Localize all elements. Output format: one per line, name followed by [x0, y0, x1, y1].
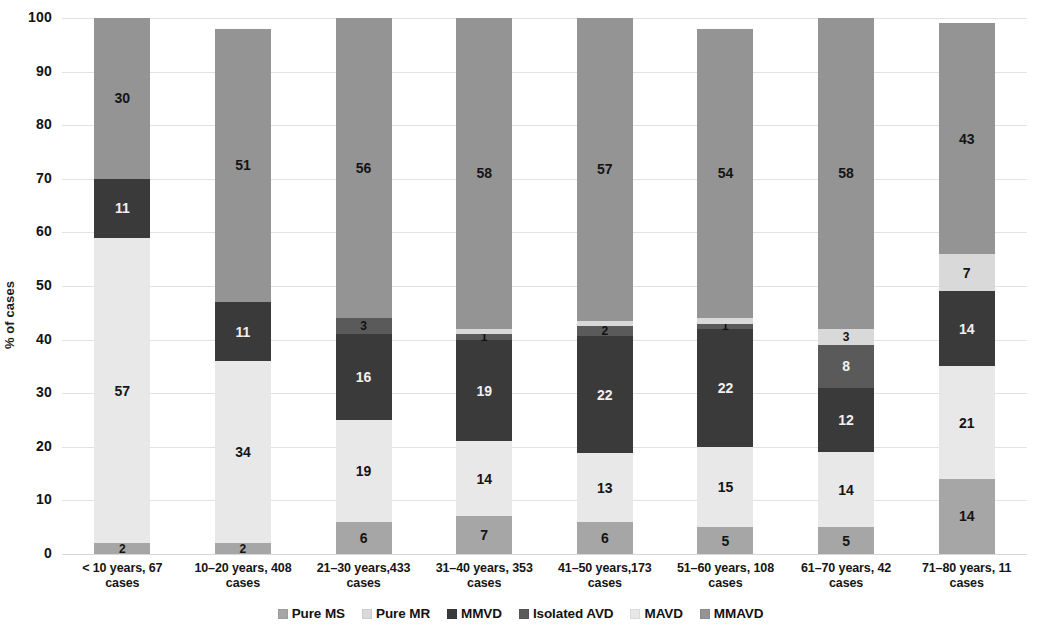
- bar-segment-value-label: 21: [939, 416, 995, 430]
- bar-segment[interactable]: 8: [818, 345, 874, 388]
- x-axis-category-label: 10–20 years, 408cases: [183, 561, 304, 591]
- gridline: [62, 286, 1027, 287]
- bar-segment[interactable]: 54: [697, 29, 753, 318]
- y-axis-tick-label: 30: [8, 384, 52, 400]
- bar-segment[interactable]: 14: [939, 291, 995, 366]
- bar-segment[interactable]: 30: [94, 18, 150, 179]
- bar-segment[interactable]: 13: [577, 453, 633, 522]
- legend-swatch-icon: [278, 609, 288, 619]
- bar-segment[interactable]: 11: [215, 302, 271, 361]
- legend-item[interactable]: Pure MS: [278, 606, 345, 621]
- bar-column[interactable]: 515221154: [697, 18, 753, 554]
- bar-segment[interactable]: 1: [456, 334, 512, 339]
- x-axis-label-line: cases: [786, 576, 907, 591]
- gridline: [62, 340, 1027, 341]
- bar-segment[interactable]: 1: [456, 329, 512, 334]
- bar-segment[interactable]: 58: [456, 18, 512, 329]
- bar-stack: 619163056: [336, 18, 392, 554]
- bar-segment[interactable]: 14: [939, 479, 995, 554]
- bar-segment-value-label: 43: [939, 132, 995, 146]
- bar-segment[interactable]: 11: [94, 179, 150, 238]
- bar-segment[interactable]: 2: [577, 326, 633, 337]
- bar-stack: 142114743: [939, 18, 995, 554]
- bar-segment-value-label: 58: [818, 166, 874, 180]
- bar-segment[interactable]: 1: [577, 321, 633, 326]
- bar-column[interactable]: 619163056: [336, 18, 392, 554]
- bar-stack: 515221154: [697, 18, 753, 554]
- x-axis-category-label: 41–50 years,173cases: [545, 561, 666, 591]
- bar-segment[interactable]: 2: [94, 543, 150, 554]
- bar-segment[interactable]: 7: [939, 254, 995, 292]
- bar-segment[interactable]: 15: [697, 447, 753, 527]
- bar-segment[interactable]: 16: [336, 334, 392, 420]
- bar-segment-value-label: 22: [577, 388, 633, 402]
- bar-segment-value-label: 19: [456, 384, 512, 398]
- bar-segment-value-label: 11: [215, 325, 271, 339]
- bar-segment[interactable]: 57: [577, 18, 633, 321]
- bar-column[interactable]: 23411051: [215, 18, 271, 554]
- bar-segment[interactable]: 6: [336, 522, 392, 554]
- bar-segment-value-label: 2: [577, 325, 633, 337]
- bar-segment-value-label: 19: [336, 464, 392, 478]
- bar-segment[interactable]: 12: [818, 388, 874, 452]
- y-axis-tick-label: 100: [8, 9, 52, 25]
- legend-swatch-icon: [630, 609, 640, 619]
- bar-segment[interactable]: 5: [818, 527, 874, 554]
- y-axis-tick-label: 10: [8, 491, 52, 507]
- bar-column[interactable]: 613222157: [577, 18, 633, 554]
- bar-segment-value-label: 14: [456, 472, 512, 486]
- legend-item[interactable]: Isolated AVD: [519, 606, 614, 621]
- bar-segment-value-label: 3: [336, 320, 392, 332]
- x-axis-category-label: 51–60 years, 108cases: [665, 561, 786, 591]
- x-axis-label-line: cases: [665, 576, 786, 591]
- bar-segment[interactable]: 22: [577, 336, 633, 453]
- bar-segment[interactable]: 56: [336, 18, 392, 318]
- legend-item[interactable]: MAVD: [630, 606, 682, 621]
- bar-segment[interactable]: 19: [456, 340, 512, 442]
- bar-segment[interactable]: 22: [697, 329, 753, 447]
- bar-segment[interactable]: 14: [456, 441, 512, 516]
- bar-column[interactable]: 714191158: [456, 18, 512, 554]
- bar-segment-value-label: 22: [697, 381, 753, 395]
- bar-segment[interactable]: 1: [697, 318, 753, 323]
- bar-segment[interactable]: 6: [577, 522, 633, 554]
- bar-segment[interactable]: 58: [818, 18, 874, 329]
- bar-column[interactable]: 142114743: [939, 18, 995, 554]
- bar-segment-value-label: 14: [818, 483, 874, 497]
- bar-segment-value-label: 56: [336, 161, 392, 175]
- gridline: [62, 500, 1027, 501]
- bar-segment[interactable]: 1: [697, 324, 753, 329]
- bar-segment-value-label: 7: [939, 266, 995, 280]
- legend-label: Pure MS: [292, 606, 345, 621]
- bar-column[interactable]: 2571130: [94, 18, 150, 554]
- x-axis-label-line: 21–30 years,433: [303, 561, 424, 576]
- bar-segment[interactable]: 43: [939, 23, 995, 253]
- bar-segment[interactable]: 3: [818, 329, 874, 345]
- gridline: [62, 125, 1027, 126]
- bar-segment[interactable]: 3: [336, 318, 392, 334]
- bar-segment[interactable]: 5: [697, 527, 753, 554]
- legend-item[interactable]: Pure MR: [362, 606, 430, 621]
- bar-segment[interactable]: 34: [215, 361, 271, 543]
- bar-segment-value-label: 5: [818, 534, 874, 548]
- bar-segment[interactable]: 14: [818, 452, 874, 527]
- x-axis-label-line: 31–40 years, 353: [424, 561, 545, 576]
- x-axis-label-line: cases: [62, 576, 183, 591]
- x-axis-category-label: 21–30 years,433cases: [303, 561, 424, 591]
- bar-segment[interactable]: 57: [94, 238, 150, 544]
- bar-segment-value-label: 14: [939, 322, 995, 336]
- stacked-bar-chart: % of cases 0102030405060708090100 257113…: [0, 0, 1041, 631]
- legend-item[interactable]: MMAVD: [700, 606, 764, 621]
- bar-segment-value-label: 13: [577, 481, 633, 495]
- legend-swatch-icon: [362, 609, 372, 619]
- y-axis-title: % of cases: [2, 245, 17, 385]
- bar-segment[interactable]: 7: [456, 516, 512, 554]
- bar-segment-value-label: 2: [94, 543, 150, 555]
- bar-segment[interactable]: 2: [215, 543, 271, 554]
- bar-segment[interactable]: 19: [336, 420, 392, 522]
- legend-item[interactable]: MMVD: [447, 606, 502, 621]
- bar-segment[interactable]: 21: [939, 366, 995, 479]
- bar-segment[interactable]: 51: [215, 29, 271, 302]
- y-axis-tick-label: 60: [8, 223, 52, 239]
- bar-column[interactable]: 514128358: [818, 18, 874, 554]
